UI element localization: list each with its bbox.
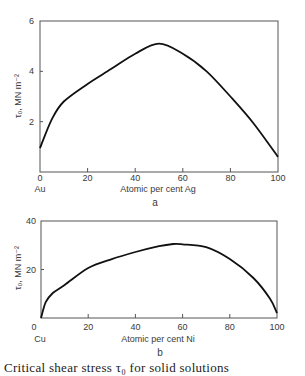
x-tick-label: 40 — [130, 173, 140, 183]
x-origin-label-b: Cu — [34, 334, 46, 344]
chart-panel-a: 020406080100 246 Au Atomic per cent Ag a… — [13, 16, 286, 208]
x-tick-label: 20 — [83, 322, 93, 332]
plot-frame-b — [41, 221, 277, 318]
x-tick-label: 100 — [269, 322, 284, 332]
y-tick-label: 6 — [29, 16, 34, 26]
y-axis-label-b: τ₀, MN m⁻² — [13, 246, 23, 290]
y-tick-label: 4 — [29, 66, 34, 76]
y-tick-label: 20 — [26, 265, 36, 275]
chart-panel-b: 020406080100 2040 Cu Atomic per cent Ni … — [13, 216, 285, 358]
figure-caption: Critical shear stress τ₀ for solid solut… — [4, 360, 229, 376]
x-axis-label-a: Atomic per cent Ag — [120, 184, 196, 194]
x-axis-label-b: Atomic per cent Ni — [121, 334, 195, 344]
data-curve-a — [40, 44, 278, 157]
x-tick-label: 80 — [225, 173, 235, 183]
x-tick-label: 40 — [130, 322, 140, 332]
x-tick-label: 0 — [37, 173, 42, 183]
x-tick-label: 0 — [31, 322, 36, 332]
x-ticks-b: 020406080100 — [31, 314, 284, 332]
y-axis-label-a: τ₀, MN m⁻² — [13, 74, 23, 118]
x-ticks-a: 020406080100 — [37, 168, 285, 183]
x-tick-label: 100 — [270, 173, 285, 183]
x-tick-label: 60 — [178, 322, 188, 332]
panel-label-a: a — [152, 197, 158, 208]
x-tick-label: 80 — [225, 322, 235, 332]
y-ticks-a: 246 — [29, 16, 43, 127]
data-curve-b — [41, 244, 277, 318]
y-tick-label: 40 — [26, 216, 36, 226]
x-tick-label: 60 — [178, 173, 188, 183]
panel-label-b: b — [157, 347, 163, 358]
x-origin-label-a: Au — [34, 184, 45, 194]
x-tick-label: 20 — [83, 173, 93, 183]
y-tick-label: 2 — [29, 117, 34, 127]
